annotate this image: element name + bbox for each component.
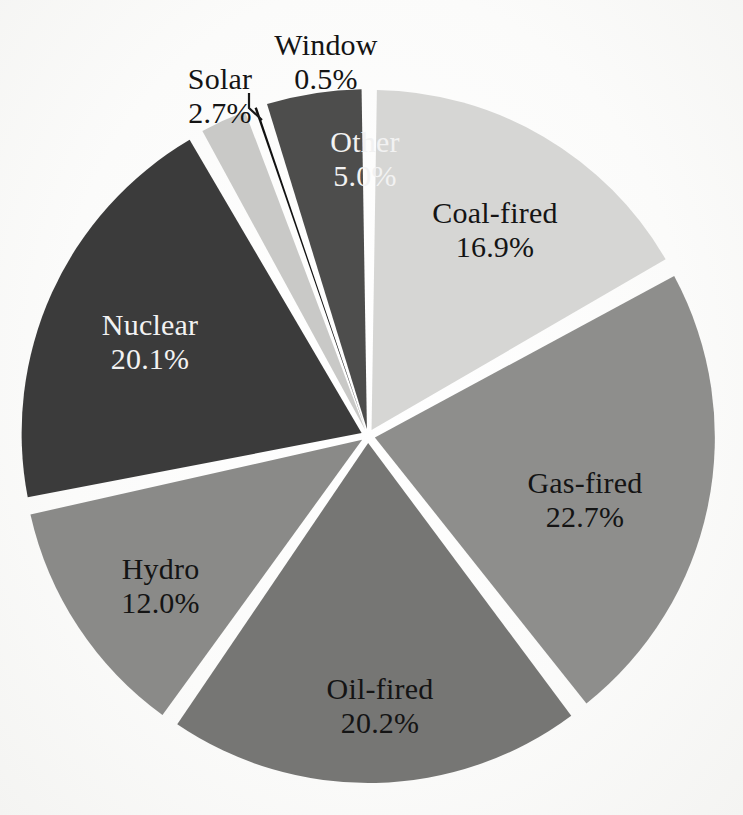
pie-label-hydro-value: 12.0% [78, 586, 243, 620]
pie-label-nuclear-value: 20.1% [60, 342, 240, 376]
pie-label-other-value: 5.0% [300, 159, 430, 193]
pie-label-gas-fired: Gas-fired 22.7% [490, 466, 680, 533]
pie-label-oil-fired: Oil-fired 20.2% [285, 672, 475, 739]
pie-label-hydro-name: Hydro [78, 552, 243, 586]
pie-label-coal-fired-name: Coal-fired [400, 196, 590, 230]
pie-label-solar-value: 2.7% [155, 96, 285, 130]
pie-label-coal-fired: Coal-fired 16.9% [400, 196, 590, 263]
pie-label-other: Other 5.0% [300, 125, 430, 192]
pie-label-nuclear: Nuclear 20.1% [60, 308, 240, 375]
pie-label-oil-fired-value: 20.2% [285, 706, 475, 740]
pie-label-window: Window 0.5% [246, 28, 406, 95]
pie-label-window-value: 0.5% [246, 62, 406, 96]
pie-label-other-name: Other [300, 125, 430, 159]
pie-label-gas-fired-value: 22.7% [490, 500, 680, 534]
pie-label-window-name: Window [246, 28, 406, 62]
pie-label-gas-fired-name: Gas-fired [490, 466, 680, 500]
pie-label-coal-fired-value: 16.9% [400, 230, 590, 264]
scan-bleed-through [120, 781, 720, 807]
pie-label-hydro: Hydro 12.0% [78, 552, 243, 619]
pie-label-nuclear-name: Nuclear [60, 308, 240, 342]
pie-label-oil-fired-name: Oil-fired [285, 672, 475, 706]
